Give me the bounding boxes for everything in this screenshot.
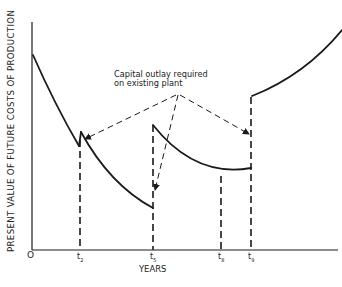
x-axis-label: YEARS (139, 265, 166, 274)
tick-label-t9: t9 (248, 252, 254, 263)
tick-label-t2: t2 (77, 252, 83, 263)
origin-label: O (27, 251, 34, 260)
cost-curve-segment-2 (81, 132, 153, 208)
cost-curve-segment-3 (153, 125, 251, 170)
cost-curve-segment-1 (33, 55, 79, 146)
tick-label-t8: t8 (218, 252, 224, 263)
y-axis-label: PRESENT VALUE OF FUTURE COSTS OF PRODUCT… (6, 10, 16, 252)
annotation-arrow-t9 (180, 95, 249, 134)
annotation-line-2: on existing plant (114, 79, 208, 88)
annotation-arrow-t5 (155, 95, 178, 190)
annotation-arrow-t2 (85, 95, 176, 139)
annotation-text: Capital outlay required on existing plan… (114, 70, 208, 88)
tick-label-t5: t5 (150, 252, 156, 263)
cost-curve-segment-4 (252, 30, 342, 96)
cost-diagram (0, 0, 342, 287)
